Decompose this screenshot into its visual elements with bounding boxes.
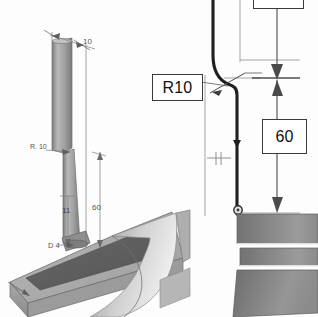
iso-dimension-label-11: 11 [62,206,70,215]
top-dimension-callout-box[interactable] [253,0,304,9]
drawing-canvas: R10 60 10 R. 10 11 60 D 4 [0,0,318,317]
construction-lines [205,0,300,216]
iso-dimension-label-10: 10 [83,37,92,46]
sixty-dimension-box[interactable]: 60 [262,119,307,154]
section-view [0,0,318,317]
center-hatch-marks [207,152,231,165]
profile-outline [213,0,237,214]
r10-callout-value: R10 [163,79,193,97]
sixty-dimension-value: 60 [275,128,293,146]
profile-mid-arrow [233,140,241,148]
pivot-circle-feature [234,206,242,214]
iso-dimension-label-60: 60 [92,203,101,212]
iso-radius-label-r10: R. 10 [30,143,47,150]
top-dimension-arrow [252,7,300,80]
r10-callout-box[interactable]: R10 [152,74,203,101]
layered-bands [233,214,318,317]
iso-diameter-label-d4: D 4 [48,241,60,250]
